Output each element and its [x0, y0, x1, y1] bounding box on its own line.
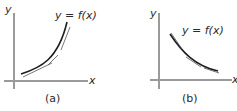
panel-a-function-label: y = f(x): [55, 9, 97, 22]
panel-a-x-axis-label: x: [89, 74, 96, 87]
panel-b-tangent-2: [186, 57, 201, 67]
panel-a-tangent-2: [48, 55, 58, 65]
panel-b-caption: (b): [182, 92, 198, 105]
panel-a-curve: [21, 22, 67, 74]
panel-b-y-axis-label: y: [150, 7, 157, 20]
panel-b-x-axis-label: x: [232, 73, 237, 86]
panel-a-caption: (a): [45, 92, 60, 105]
figure-canvas: [0, 0, 237, 111]
panel-a-tangent-1: [23, 63, 52, 77]
panel-b-tangent-1: [171, 33, 182, 49]
panel-b-curve: [170, 34, 218, 71]
panel-a: [4, 13, 88, 89]
panel-a-y-axis-label: y: [5, 3, 12, 16]
panel-b-function-label: y = f(x): [182, 24, 224, 37]
